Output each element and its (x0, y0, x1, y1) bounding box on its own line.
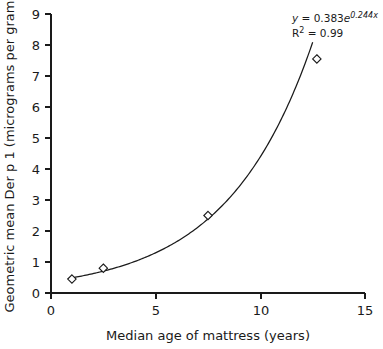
data-point-marker (313, 55, 321, 63)
x-tick-label: 5 (152, 303, 160, 318)
y-axis-title: Geometric mean Der p 1 (micrograms per g… (2, 0, 17, 312)
y-tick-label: 8 (32, 38, 40, 53)
x-tick-label: 0 (47, 303, 55, 318)
data-point-marker (99, 264, 107, 272)
data-point-markers (68, 55, 321, 284)
chart-figure: 9 8 7 6 5 4 3 2 1 0 0 5 10 15 Median age… (0, 0, 383, 349)
exponential-fit-curve (68, 42, 313, 278)
y-tick-label: 0 (32, 286, 40, 301)
data-point-marker (68, 275, 76, 283)
x-axis-title: Median age of mattress (years) (106, 328, 310, 343)
fit-equation-annotation: y = 0.383e0.244x (291, 11, 378, 24)
y-tick-label: 7 (32, 69, 40, 84)
x-tick-label: 10 (253, 303, 270, 318)
y-tick-label: 1 (32, 255, 40, 270)
x-tick-label: 15 (357, 303, 374, 318)
equation-exponent: 0.244x (350, 11, 378, 20)
r-squared-value: = 0.99 (304, 27, 343, 39)
y-axis-tick-labels: 9 8 7 6 5 4 3 2 1 0 (32, 7, 40, 301)
scatter-plot-canvas: 9 8 7 6 5 4 3 2 1 0 0 5 10 15 Median age… (0, 0, 383, 349)
equation-operator: = 0.383 (298, 12, 344, 24)
x-axis-ticks (51, 293, 365, 299)
y-tick-label: 4 (32, 162, 40, 177)
x-axis-tick-labels: 0 5 10 15 (47, 303, 373, 318)
y-tick-label: 6 (32, 100, 40, 115)
r-squared-symbol: R (292, 27, 299, 39)
y-tick-label: 5 (32, 131, 40, 146)
y-tick-label: 2 (32, 224, 40, 239)
y-tick-label: 3 (32, 193, 40, 208)
y-tick-label: 9 (32, 7, 40, 22)
data-point-marker (204, 211, 212, 219)
y-axis-ticks (45, 14, 51, 293)
r-squared-annotation: R2 = 0.99 (292, 26, 343, 39)
